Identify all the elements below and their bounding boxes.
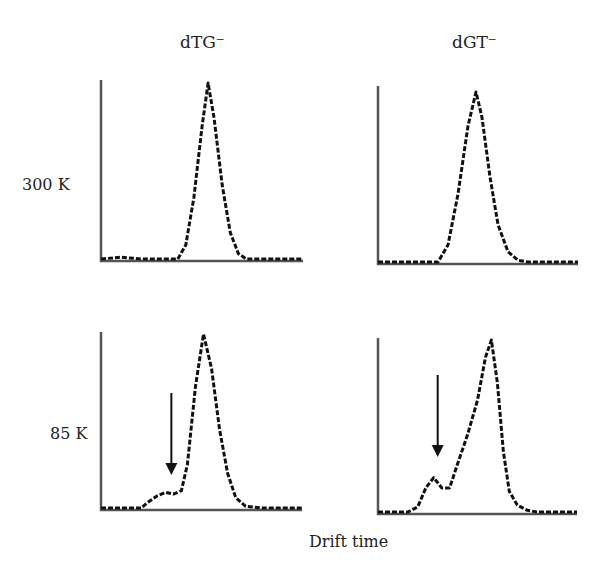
axes [378,86,578,264]
trace-line [101,83,303,259]
trace-line [378,340,577,512]
panel-dTG-85K [101,332,302,510]
axes [378,338,577,514]
axes [101,80,303,261]
arrow-head-icon [432,445,444,457]
panel-dGT-300K [378,86,578,264]
chart-area [0,0,609,571]
panel-dTG-300K [101,80,303,261]
panel-dGT-85K [378,338,577,514]
axes [101,332,302,510]
arrow-head-icon [165,463,177,475]
trace-line [378,92,578,262]
trace-line [101,334,302,508]
